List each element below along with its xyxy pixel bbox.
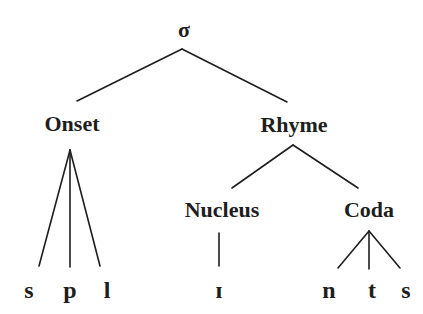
node-syllable-root: σ (178, 19, 190, 41)
leaf-segment: n (322, 278, 335, 302)
tree-edge (70, 150, 100, 266)
leaf-segment: t (368, 278, 376, 302)
node-rhyme: Rhyme (260, 114, 327, 136)
node-onset: Onset (45, 113, 100, 135)
tree-edge (232, 145, 293, 188)
tree-edge (77, 49, 182, 101)
leaf-segment: ɪ (216, 278, 223, 302)
tree-edge (293, 145, 358, 188)
syllable-tree-diagram: σ Onset Rhyme Nucleus Coda s p l ɪ n t s (0, 0, 423, 314)
leaf-segment: s (24, 278, 33, 302)
leaf-segment: l (104, 278, 111, 302)
tree-edge (182, 49, 287, 102)
leaf-segment: s (401, 278, 410, 302)
node-coda: Coda (344, 199, 394, 221)
tree-edge (39, 150, 70, 266)
node-nucleus: Nucleus (185, 199, 260, 221)
leaf-segment: p (63, 278, 76, 302)
tree-edge (338, 231, 369, 268)
tree-edges (0, 0, 423, 314)
tree-edge (369, 231, 400, 268)
